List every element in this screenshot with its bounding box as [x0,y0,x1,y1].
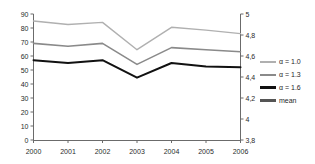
svg-text:30: 30 [21,95,29,102]
svg-text:3,8: 3,8 [246,137,256,144]
legend-item-mean[interactable]: mean [260,94,315,107]
left-axis-ticks: 0102030405060708090 [21,11,34,144]
svg-text:20: 20 [21,109,29,116]
svg-text:4,2: 4,2 [246,95,256,102]
svg-text:4,6: 4,6 [246,53,256,60]
svg-text:2004: 2004 [164,148,180,155]
svg-text:80: 80 [21,25,29,32]
legend-label-mean: mean [279,97,297,104]
chart-legend: α = 1.0 α = 1.3 α = 1.6 mean [260,55,315,107]
svg-text:40: 40 [21,81,29,88]
legend-swatch-alpha-1-3 [260,74,276,76]
svg-text:70: 70 [21,39,29,46]
svg-text:50: 50 [21,67,29,74]
right-axis-ticks: 3,844,24,44,64,85 [241,11,256,144]
svg-text:4: 4 [246,116,250,123]
svg-text:4,4: 4,4 [246,74,256,81]
legend-label-alpha-1-6: α = 1.6 [279,84,301,91]
legend-swatch-alpha-1-6 [260,86,276,89]
svg-text:2003: 2003 [129,148,145,155]
series-line-2 [34,60,241,77]
legend-label-alpha-1-0: α = 1.0 [279,58,301,65]
svg-text:2005: 2005 [198,148,214,155]
legend-item-alpha-1-0[interactable]: α = 1.0 [260,55,315,68]
chart-container: 0102030405060708090 3,844,24,44,64,85 20… [0,0,315,164]
svg-text:4,8: 4,8 [246,32,256,39]
x-axis-ticks: 2000200120022003200420052006 [26,140,249,155]
legend-item-alpha-1-6[interactable]: α = 1.6 [260,81,315,94]
data-series-layer [34,0,241,78]
svg-text:90: 90 [21,11,29,18]
svg-text:60: 60 [21,53,29,60]
series-line-1 [34,43,241,64]
legend-swatch-mean [260,99,276,102]
legend-item-alpha-1-3[interactable]: α = 1.3 [260,68,315,81]
svg-text:2006: 2006 [233,148,249,155]
legend-swatch-alpha-1-0 [260,61,276,63]
svg-text:2001: 2001 [60,148,76,155]
svg-text:10: 10 [21,123,29,130]
legend-label-alpha-1-3: α = 1.3 [279,71,301,78]
svg-text:0: 0 [25,137,29,144]
svg-text:5: 5 [246,11,250,18]
svg-text:2000: 2000 [26,148,42,155]
svg-text:2002: 2002 [95,148,111,155]
